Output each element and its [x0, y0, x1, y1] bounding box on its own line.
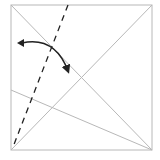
origami-fold-diagram — [0, 0, 160, 160]
fold-arrow-tail-icon — [17, 39, 24, 47]
fold-arrow-icon — [22, 42, 68, 71]
valley-fold-line — [13, 5, 68, 147]
